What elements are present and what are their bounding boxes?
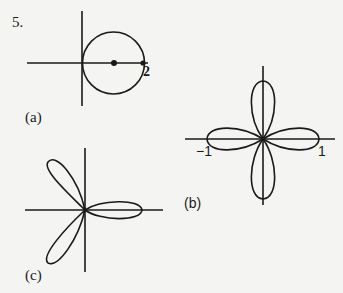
graph-a-tick-label-2: 2 (143, 65, 150, 79)
graph-b-tick-label-neg1: −1 (196, 144, 212, 158)
problem-number: 5. (12, 15, 23, 30)
graph-a-caption: (a) (25, 110, 42, 125)
graph-a (27, 11, 148, 106)
graph-a-center-dot (112, 61, 116, 65)
graph-c-caption: (c) (25, 268, 42, 283)
graph-c-petal-lower-left (47, 210, 85, 264)
graph-b-caption: (b) (184, 196, 201, 210)
figure-canvas (0, 0, 343, 293)
graph-c-petal-upper-left (47, 160, 85, 210)
graph-c (25, 148, 163, 272)
graph-b (185, 66, 335, 205)
graph-b-tick-label-1: 1 (318, 144, 326, 158)
